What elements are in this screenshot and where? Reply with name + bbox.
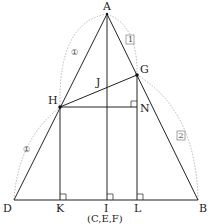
ratio-mark-AG: 1 xyxy=(128,35,133,44)
segments xyxy=(14,14,198,200)
right-angle-I xyxy=(107,194,113,200)
label-B: B xyxy=(199,202,207,215)
point-G xyxy=(135,73,139,77)
label-L: L xyxy=(134,202,142,215)
right-angle-marks xyxy=(60,101,143,200)
ratio-mark-AG-box: 1 xyxy=(126,35,134,44)
label-coincident: (C,E,F) xyxy=(87,213,123,224)
label-N: N xyxy=(140,102,150,115)
label-G: G xyxy=(140,63,149,76)
right-angle-L xyxy=(137,194,143,200)
label-J: J xyxy=(95,76,100,89)
label-H: H xyxy=(48,94,58,107)
ratio-mark-GB-box: 2 xyxy=(177,131,185,140)
point-A xyxy=(106,13,108,15)
ratio-mark-AH: ① xyxy=(71,48,78,57)
label-D: D xyxy=(3,202,12,215)
geometry-diagram: A G J H N D K I L B (C,E,F) ① ① 1 2 xyxy=(0,0,209,224)
ratio-mark-GB: 2 xyxy=(179,131,184,140)
ratio-mark-HD: ① xyxy=(23,145,30,154)
label-K: K xyxy=(56,202,65,215)
label-A: A xyxy=(102,0,112,13)
point-H xyxy=(58,105,62,109)
right-angle-N xyxy=(131,101,137,107)
right-angle-K xyxy=(60,194,66,200)
